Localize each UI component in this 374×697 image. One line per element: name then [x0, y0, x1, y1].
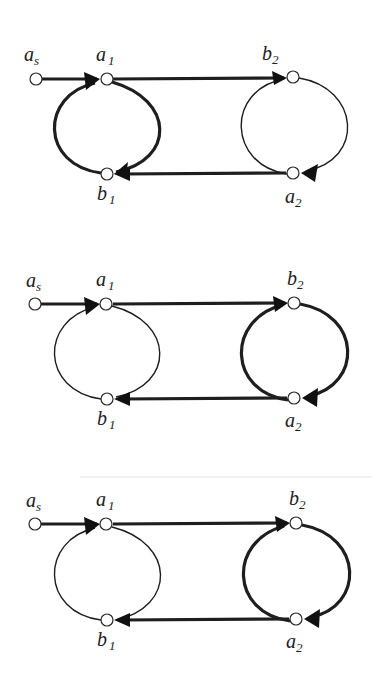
node-a2: [288, 392, 300, 404]
arrowhead-icon: [272, 71, 287, 85]
node-as: [29, 298, 41, 310]
edge-a2-b2: [243, 526, 290, 621]
label-b2: b2: [262, 42, 279, 67]
node-a1: [100, 518, 112, 530]
label-b1: b1: [97, 407, 116, 432]
node-b2: [287, 71, 299, 83]
edge-a1-b2: [113, 78, 284, 79]
edge-b2-a2: [300, 304, 348, 396]
label-b1: b1: [97, 182, 116, 207]
edge-b1-a1: [54, 83, 101, 173]
edge-a2-b1: [122, 173, 286, 174]
label-a1: a1: [96, 268, 115, 293]
label-b2: b2: [289, 487, 306, 512]
node-a1: [100, 298, 112, 310]
edge-b2-a2: [302, 525, 350, 617]
node-a2: [287, 167, 299, 179]
label-b1: b1: [97, 628, 116, 653]
node-b1: [101, 614, 113, 626]
edge-a2-b2: [241, 305, 288, 400]
label-as: as: [26, 269, 41, 294]
arrowhead-icon: [275, 516, 290, 532]
arrowhead-icon: [302, 388, 318, 407]
edge-a1-b1: [112, 306, 160, 397]
node-a2: [290, 613, 302, 625]
arrowhead-icon: [301, 164, 318, 182]
panel-2: as a1 b2 b1 a2: [26, 267, 348, 434]
edge-a1-b2: [113, 523, 287, 524]
edge-b1-a1: [54, 307, 101, 399]
label-b2: b2: [287, 267, 304, 292]
edge-a2-b1: [122, 619, 289, 620]
edge-a1-b1: [112, 82, 160, 172]
node-as: [30, 73, 42, 85]
arrowhead-icon: [304, 609, 320, 628]
arrowhead-icon: [84, 72, 100, 90]
arrowhead-icon: [84, 517, 100, 535]
node-b2: [288, 297, 300, 309]
arrowhead-icon: [84, 297, 100, 315]
label-a2: a2: [286, 630, 303, 655]
label-a1: a1: [96, 43, 115, 68]
arrowhead-icon: [273, 296, 288, 312]
edge-b1-a1: [54, 528, 101, 620]
edge-a1-b1: [112, 527, 161, 620]
node-b2: [290, 517, 302, 529]
label-a2: a2: [285, 185, 302, 210]
label-as: as: [24, 43, 39, 68]
node-b1: [101, 393, 113, 405]
node-as: [29, 518, 41, 530]
panel-1: as a1 b2 b1 a2: [24, 42, 348, 210]
arrowhead-icon: [114, 392, 130, 406]
edge-a2-b1: [122, 398, 287, 399]
arrowhead-icon: [114, 613, 130, 627]
label-a1: a1: [96, 488, 115, 513]
label-a2: a2: [285, 409, 302, 434]
edge-a2-b2: [241, 79, 287, 174]
label-as: as: [26, 489, 41, 514]
node-b1: [101, 168, 113, 180]
edge-a1-b2: [113, 303, 285, 304]
edge-b2-a2: [299, 78, 348, 171]
node-a1: [101, 73, 113, 85]
panel-3: as a1 b2 b1 a2: [26, 487, 350, 655]
signal-flow-figure: as a1 b2 b1 a2 as a1 b2 b1 a2: [0, 0, 374, 697]
